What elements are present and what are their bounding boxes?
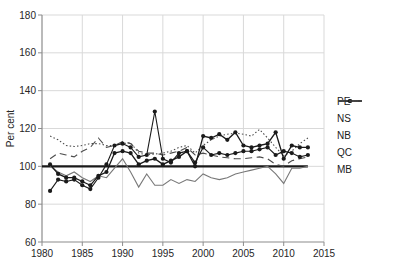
series-NB-marker xyxy=(80,183,84,187)
series-PE-marker xyxy=(257,143,261,147)
series-NB-marker xyxy=(112,143,116,147)
y-tick-label: 160 xyxy=(19,47,36,58)
series-PE-marker xyxy=(290,143,294,147)
legend-label-NB: NB xyxy=(337,131,351,141)
series-PE-marker xyxy=(64,176,68,180)
x-tick-label: 2015 xyxy=(313,248,336,259)
series-NB-marker xyxy=(241,149,245,153)
x-tick-label: 1985 xyxy=(71,248,94,259)
series-NB-marker xyxy=(290,151,294,155)
series-NB-marker xyxy=(153,109,157,113)
series-NB-marker xyxy=(88,187,92,191)
x-tick-label: 1995 xyxy=(152,248,175,259)
series-NB-marker xyxy=(298,155,302,159)
series-NB-marker xyxy=(64,179,68,183)
line-chart-figure: Per cent 6080100120140160180198019851990… xyxy=(0,0,395,267)
series-NB-marker xyxy=(201,145,205,149)
y-axis-label: Per cent xyxy=(5,110,16,147)
plot-area: 6080100120140160180198019851990199520002… xyxy=(19,10,335,260)
chart-plot: Per cent 6080100120140160180198019851990… xyxy=(0,0,395,267)
series-PE-marker xyxy=(249,145,253,149)
series-PE-marker xyxy=(112,151,116,155)
series-NB-marker xyxy=(104,162,108,166)
series-NB-marker xyxy=(56,177,60,181)
legend-item-NS: NS xyxy=(337,113,352,124)
legend-label-NS: NS xyxy=(337,114,351,124)
y-tick-label: 80 xyxy=(25,199,37,210)
series-NB-marker xyxy=(257,147,261,151)
series-NB-marker xyxy=(306,153,310,157)
series-PE-marker xyxy=(298,145,302,149)
series-NS-line xyxy=(50,159,308,187)
legend-item-MB: MB xyxy=(337,164,352,175)
x-tick-label: 2005 xyxy=(232,248,255,259)
series-PE-marker xyxy=(306,145,310,149)
y-tick-label: 120 xyxy=(19,123,36,134)
series-NB-marker xyxy=(177,151,181,155)
series-PE-marker xyxy=(153,157,157,161)
series-PE-marker xyxy=(88,183,92,187)
series-PE-marker xyxy=(129,151,133,155)
legend-item-QC: QC xyxy=(337,147,352,158)
series-PE-marker xyxy=(169,159,173,163)
series-PE-marker xyxy=(120,149,124,153)
y-tick-label: 140 xyxy=(19,85,36,96)
series-NB-marker xyxy=(274,153,278,157)
series-PE-marker xyxy=(137,162,141,166)
legend-sample-MB xyxy=(337,96,363,106)
x-tick-label: 1990 xyxy=(111,248,134,259)
series-PE-marker xyxy=(225,138,229,142)
series-NB-marker xyxy=(233,151,237,155)
series-PE-marker xyxy=(104,170,108,174)
series-PE-marker xyxy=(145,159,149,163)
series-PE-marker xyxy=(274,130,278,134)
series-PE-marker xyxy=(80,179,84,183)
series-PE-marker xyxy=(72,176,76,180)
y-tick-label: 60 xyxy=(25,237,37,248)
series-NB-marker xyxy=(48,189,52,193)
legend-label-MB: MB xyxy=(337,165,352,175)
legend: PENSNBQCMB xyxy=(337,96,352,175)
series-NB-marker xyxy=(266,145,270,149)
x-tick-label: 2000 xyxy=(192,248,215,259)
x-tick-label: 1980 xyxy=(31,248,54,259)
series-PE-marker xyxy=(217,132,221,136)
y-tick-label: 100 xyxy=(19,161,36,172)
series-NB-marker xyxy=(249,149,253,153)
series-NB-marker xyxy=(145,153,149,157)
series-PE-marker xyxy=(209,136,213,140)
series-PE-marker xyxy=(193,164,197,168)
series-PE-marker xyxy=(177,155,181,159)
series-PE-marker xyxy=(96,174,100,178)
legend-label-QC: QC xyxy=(337,148,352,158)
series-NB-marker xyxy=(137,155,141,159)
series-PE-marker xyxy=(161,162,165,166)
series-PE-marker xyxy=(56,172,60,176)
series-NB-marker xyxy=(225,153,229,157)
y-tick-label: 180 xyxy=(19,10,36,21)
series-PE-marker xyxy=(233,130,237,134)
series-PE-marker xyxy=(266,142,270,146)
legend-item-NB: NB xyxy=(337,130,352,141)
series-NB-marker xyxy=(161,157,165,161)
series-PE-marker xyxy=(282,157,286,161)
series-NB-marker xyxy=(209,153,213,157)
series-PE-marker xyxy=(48,162,52,166)
series-NB-marker xyxy=(120,142,124,146)
series-PE-marker xyxy=(241,143,245,147)
x-tick-label: 2010 xyxy=(273,248,296,259)
series-PE-marker xyxy=(185,149,189,153)
series-PE-marker xyxy=(201,134,205,138)
series-NB-marker xyxy=(129,145,133,149)
series-NB-marker xyxy=(217,151,221,155)
